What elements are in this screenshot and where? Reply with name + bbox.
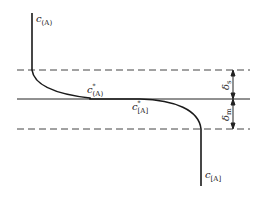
label-interface-phase1: c*(A) bbox=[87, 82, 103, 98]
label-film-thickness-lower: δm bbox=[220, 108, 233, 121]
label-interface-phase2: c*[A] bbox=[132, 99, 148, 115]
label-film-thickness-upper: δs bbox=[220, 80, 233, 90]
label-bulk-phase1: c(A) bbox=[36, 13, 52, 27]
concentration-profile-diagram: c(A) c*(A) c*[A] c[A] δs δm bbox=[0, 0, 261, 199]
label-bulk-phase2: c[A] bbox=[205, 169, 221, 183]
